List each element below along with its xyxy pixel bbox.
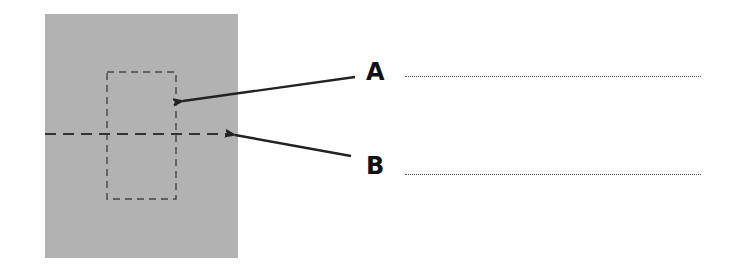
diagram-lines xyxy=(0,0,731,268)
label-b: B xyxy=(366,154,384,178)
arrow-a-icon xyxy=(183,77,355,101)
arrow-b-icon xyxy=(235,135,351,156)
label-a: A xyxy=(366,60,385,84)
answer-line-a[interactable] xyxy=(405,76,701,77)
answer-line-b[interactable] xyxy=(405,174,701,175)
inner-dashed-rectangle xyxy=(107,72,176,199)
